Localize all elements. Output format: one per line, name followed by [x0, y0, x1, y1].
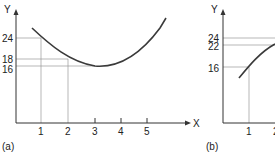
x-tick-label: 1 [38, 126, 44, 137]
x-tick-label: 5 [144, 126, 150, 137]
x-tick-label: 3 [92, 126, 98, 137]
panel-label-b: (b) [206, 141, 218, 152]
y-tick-label: 24 [2, 33, 14, 44]
figure: Y X 24 18 16 1 2 3 4 5 (a) Y 24 22 16 1 … [0, 0, 275, 152]
y-axis-arrow-icon [14, 9, 19, 15]
x-axis-label-a: X [193, 118, 200, 129]
y-axis-label-b: Y [211, 4, 218, 15]
x-tick-label: 1 [246, 126, 252, 137]
curve-b [239, 44, 275, 78]
panel-label-a: (a) [2, 141, 14, 152]
x-tick-label: 2 [65, 126, 71, 137]
x-tick-label: 2 [273, 126, 275, 137]
y-axis-arrow-icon [221, 9, 226, 15]
y-tick-label: 22 [208, 41, 220, 52]
y-axis-label-a: Y [4, 4, 11, 15]
y-tick-label: 16 [208, 63, 220, 74]
x-tick-label: 4 [118, 126, 124, 137]
x-axis-arrow-icon [185, 121, 191, 126]
panel-b: Y 24 22 16 1 2 (b) [206, 4, 275, 152]
y-tick-label: 16 [2, 64, 14, 75]
panel-a: Y X 24 18 16 1 2 3 4 5 (a) [2, 4, 200, 152]
